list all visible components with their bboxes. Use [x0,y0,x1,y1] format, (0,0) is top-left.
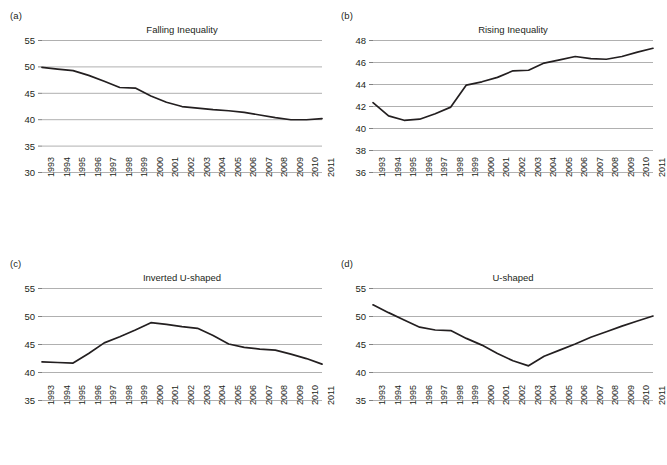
x-axis-tick-label: 2007 [595,385,605,405]
panel-d-chart [373,288,653,400]
y-axis-tick-label: 35 [355,395,366,406]
x-axis-tick-label: 2004 [548,385,558,405]
x-axis-tick-label: 2009 [626,385,636,405]
x-axis-tick-label: 1998 [455,385,465,405]
x-axis-tick-label: 2008 [610,157,620,177]
x-axis-tick-label: 2004 [217,157,227,177]
x-axis-tick-label: 2000 [155,157,165,177]
x-axis-tick-label: 2002 [186,385,196,405]
x-axis-tick-label: 2001 [170,157,180,177]
x-axis-tick-label: 2002 [186,157,196,177]
panel-b-plot-area: 3638404244464819931994199519961997199819… [373,40,653,172]
y-axis-tick-label: 35 [24,395,35,406]
x-axis-tick-label: 1997 [439,385,449,405]
data-series-line [373,305,653,366]
x-axis-tick-label: 2005 [233,385,243,405]
x-axis-tick-label: 2001 [501,385,511,405]
x-axis-tick-label: 2007 [264,157,274,177]
x-axis-tick-label: 2011 [657,386,667,405]
panel-b: (b) Rising Inequality 363840424446481993… [341,10,663,242]
x-axis-tick-label: 2005 [564,385,574,405]
x-axis-tick-label: 2003 [533,157,543,177]
x-axis-tick-label: 2000 [155,385,165,405]
x-axis-tick-label: 2008 [279,385,289,405]
panel-a: (a) Falling Inequality 30354045505519931… [10,10,332,242]
x-axis-tick-label: 2009 [295,385,305,405]
x-axis-tick-label: 2009 [626,157,636,177]
panel-d-plot-area: 3540455055199319941995199619971998199920… [373,288,653,400]
x-axis-tick-label: 2003 [533,385,543,405]
x-axis-tick-label: 1999 [139,385,149,405]
x-axis-tick-label: 1996 [424,385,434,405]
panel-a-label: (a) [10,10,22,21]
y-axis-tick-label: 42 [355,101,366,112]
y-axis-tick-label: 30 [24,167,35,178]
x-axis-tick-label: 1996 [93,385,103,405]
x-axis-tick-label: 1993 [46,385,56,405]
x-axis-tick-label: 1998 [455,157,465,177]
panel-b-chart [373,40,653,172]
x-axis-tick-label: 2006 [579,157,589,177]
x-axis-tick-label: 1999 [470,157,480,177]
y-axis-tick-label: 50 [24,311,35,322]
data-series-line [42,323,322,364]
x-axis-tick-label: 2007 [264,385,274,405]
x-axis-tick-label: 1998 [124,157,134,177]
y-axis-tick-label: 45 [355,339,366,350]
x-axis-tick-label: 2003 [202,157,212,177]
y-axis-tick-label: 40 [355,367,366,378]
x-axis-tick-label: 2006 [579,385,589,405]
x-axis-tick-label: 1993 [377,157,387,177]
x-axis-tick-label: 2010 [310,157,320,177]
x-axis-tick-label: 1993 [377,385,387,405]
x-axis-tick-label: 1995 [408,157,418,177]
x-axis-tick-label: 2005 [564,157,574,177]
y-axis-tick-label: 44 [355,79,366,90]
y-axis-tick-label: 45 [24,87,35,98]
x-axis-tick-label: 1997 [439,157,449,177]
panel-c-title: Inverted U-shaped [42,272,322,283]
x-axis-tick-label: 2005 [233,157,243,177]
x-axis-tick-label: 1996 [424,157,434,177]
x-axis-tick-label: 1997 [108,157,118,177]
x-axis-tick-label: 2000 [486,385,496,405]
x-axis-tick-label: 1994 [62,385,72,405]
panel-d: (d) U-shaped 354045505519931994199519961… [341,258,663,465]
y-axis-tick-label: 50 [355,311,366,322]
y-axis-tick-label: 48 [355,35,366,46]
panel-c: (c) Inverted U-shaped 354045505519931994… [10,258,332,465]
x-axis-tick-label: 2011 [326,386,336,405]
y-axis-tick-label: 45 [24,339,35,350]
x-axis-tick-label: 2010 [641,385,651,405]
x-axis-tick-label: 1995 [408,385,418,405]
x-axis-tick-label: 2010 [310,385,320,405]
panel-d-title: U-shaped [373,272,653,283]
y-axis-tick-label: 46 [355,57,366,68]
x-axis-tick-label: 2008 [279,157,289,177]
x-axis-tick-label: 2000 [486,157,496,177]
y-axis-tick-label: 40 [355,123,366,134]
y-axis-tick-label: 36 [355,167,366,178]
x-axis-tick-label: 2006 [248,157,258,177]
panel-c-label: (c) [10,258,21,269]
y-axis-tick-label: 35 [24,140,35,151]
x-axis-tick-label: 1998 [124,385,134,405]
x-axis-tick-label: 1994 [393,157,403,177]
panel-a-chart [42,40,322,172]
panel-b-title: Rising Inequality [373,24,653,35]
x-axis-tick-label: 1999 [470,385,480,405]
y-axis-tick-label: 50 [24,61,35,72]
panel-a-plot-area: 3035404550551993199419951996199719981999… [42,40,322,172]
x-axis-tick-label: 2011 [326,158,336,177]
panel-b-label: (b) [341,10,353,21]
x-axis-tick-label: 2001 [501,157,511,177]
x-axis-tick-label: 2008 [610,385,620,405]
y-axis-tick-label: 55 [24,283,35,294]
x-axis-tick-label: 2002 [517,157,527,177]
y-axis-tick-label: 55 [355,283,366,294]
x-axis-tick-label: 1993 [46,157,56,177]
x-axis-tick-label: 1994 [393,385,403,405]
x-axis-tick-label: 2007 [595,157,605,177]
x-axis-tick-label: 1999 [139,157,149,177]
